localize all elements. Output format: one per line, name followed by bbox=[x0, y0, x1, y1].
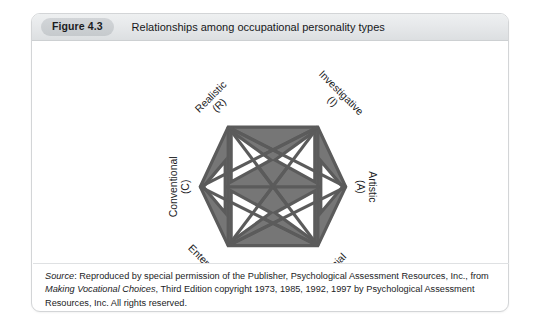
vertex-label-investigative: Investigative (I) bbox=[308, 68, 365, 125]
hexagon-diagram-svg: Realistic (R) Investigative (I) Artistic… bbox=[32, 41, 508, 263]
label-investigative-name: Investigative bbox=[317, 68, 366, 117]
label-artistic-code: (A) bbox=[355, 180, 366, 194]
vertex-label-realistic: Realistic (R) bbox=[193, 79, 237, 123]
label-realistic-name: Realistic bbox=[193, 79, 229, 115]
figure-card: Figure 4.3 Relationships among occupatio… bbox=[31, 13, 509, 312]
vertex-label-social: Social (S) bbox=[320, 251, 356, 263]
vertex-label-enterprising: Enterprising (E) bbox=[178, 242, 234, 263]
figure-page: Figure 4.3 Relationships among occupatio… bbox=[0, 0, 541, 326]
label-social-name: Social bbox=[320, 251, 348, 263]
source-label: Source bbox=[45, 271, 74, 281]
figure-header: Figure 4.3 Relationships among occupatio… bbox=[32, 14, 508, 41]
label-artistic-name: Artistic bbox=[367, 171, 378, 202]
label-conventional-name: Conventional bbox=[168, 156, 179, 217]
vertex-label-artistic: Artistic (A) bbox=[355, 171, 378, 202]
label-conventional-code: (C) bbox=[180, 180, 191, 194]
source-note: Source: Reproduced by special permission… bbox=[45, 270, 497, 310]
source-text-1: : Reproduced by special permission of th… bbox=[74, 271, 489, 281]
source-divider bbox=[33, 263, 509, 264]
hexagon-diagram: Realistic (R) Investigative (I) Artistic… bbox=[32, 41, 508, 263]
figure-title: Relationships among occupational persona… bbox=[132, 22, 385, 33]
figure-number-badge: Figure 4.3 bbox=[41, 18, 114, 36]
source-italic-title: Making Vocational Choices bbox=[45, 284, 155, 294]
vertex-label-conventional: Conventional (C) bbox=[168, 156, 191, 217]
label-enterprising-name: Enterprising bbox=[186, 242, 233, 263]
